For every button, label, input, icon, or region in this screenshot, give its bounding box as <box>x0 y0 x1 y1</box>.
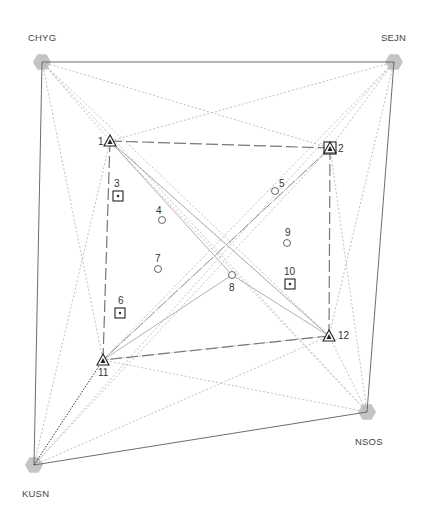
point-label: 7 <box>155 254 161 264</box>
loop-line-1-2 <box>110 141 330 148</box>
sight-line-KUSN-12 <box>34 336 329 465</box>
point-marker-1-triangle-icon[interactable] <box>104 135 116 146</box>
point-marker-6-square-dot-icon[interactable] <box>115 308 125 318</box>
loop-line-2-12 <box>329 148 330 336</box>
solid-line-1-8 <box>110 141 232 275</box>
loop-line-12-11 <box>103 336 329 360</box>
point-label: 12 <box>338 331 349 341</box>
point-marker-5-circle-icon[interactable] <box>272 188 279 195</box>
control-station-label: KUSN <box>22 489 49 499</box>
sight-line-NSOS-1 <box>110 141 367 412</box>
control-station-label: NSOS <box>355 437 383 447</box>
point-label: 1 <box>98 137 104 147</box>
sight-lines <box>34 62 394 465</box>
point-label: 2 <box>338 144 344 154</box>
point-label: 3 <box>114 179 120 189</box>
sight-line-NSOS-11 <box>103 360 367 412</box>
point-label: 9 <box>285 228 291 238</box>
solid-line-1-12 <box>110 141 329 336</box>
frame-line-KUSN-CHYG <box>34 62 42 465</box>
sight-line-KUSN-1 <box>34 141 110 465</box>
point-label: 10 <box>284 267 295 277</box>
loop-line-11-1 <box>103 141 110 360</box>
point-label: 4 <box>156 206 162 216</box>
sight-line-SEJN-KUSN <box>34 62 394 465</box>
sight-line-SEJN-2 <box>330 62 394 148</box>
point-label: 8 <box>229 283 235 293</box>
frame-line-NSOS-KUSN <box>34 412 367 465</box>
point-marker-3-square-dot-icon[interactable] <box>113 191 123 201</box>
sight-line-CHYG-1 <box>42 62 110 141</box>
point-marker-8-circle-icon[interactable] <box>229 272 236 279</box>
sight-line-NSOS-2 <box>330 148 367 412</box>
sight-line-SEJN-11 <box>103 62 394 360</box>
highlight-line-KUSN-11 <box>34 360 103 465</box>
point-marker-2-triangle-in-square-icon[interactable] <box>324 142 336 154</box>
sight-line-SEJN-12 <box>329 62 394 336</box>
point-label: 5 <box>279 179 285 189</box>
solid-gray-lines <box>103 141 329 360</box>
solid-line-8-12 <box>232 275 329 336</box>
point-marker-10-square-dot-icon[interactable] <box>285 279 295 289</box>
control-station-label: CHYG <box>28 33 56 43</box>
frame-line-SEJN-NSOS <box>367 62 394 412</box>
sight-line-SEJN-1 <box>110 62 394 141</box>
point-label: 6 <box>118 296 124 306</box>
highlight-lines <box>34 360 103 465</box>
point-marker-7-circle-icon[interactable] <box>155 266 162 273</box>
point-marker-9-circle-icon[interactable] <box>284 240 291 247</box>
point-label: 11 <box>98 368 108 378</box>
sight-line-CHYG-2 <box>42 62 330 148</box>
control-station-label: SEJN <box>381 33 406 43</box>
point-marker-12-triangle-icon[interactable] <box>323 330 335 341</box>
point-marker-4-circle-icon[interactable] <box>159 217 166 224</box>
sight-line-NSOS-12 <box>329 336 367 412</box>
survey-network-diagram: CHYGSEJNNSOSKUSN123456789101112 <box>0 0 427 522</box>
